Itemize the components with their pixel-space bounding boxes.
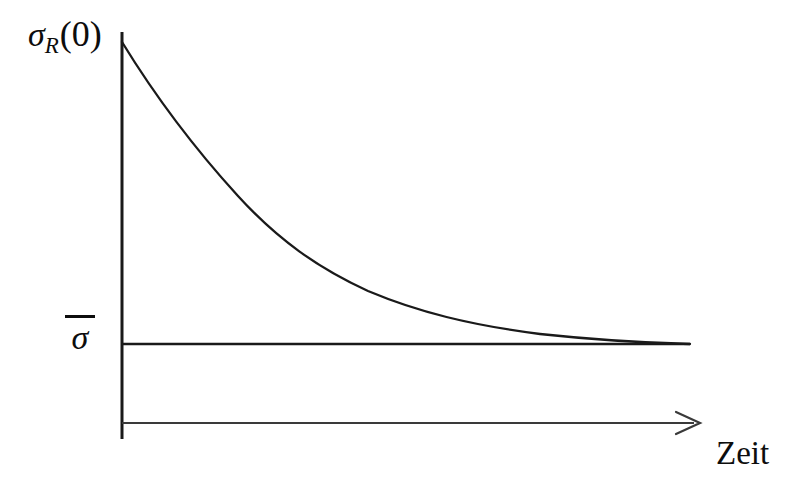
sigma-bar-symbol: σ — [57, 321, 103, 355]
sigma-argument: (0) — [60, 14, 102, 54]
x-axis-label: Zeit — [716, 437, 769, 470]
sigma-subscript-r: R — [45, 33, 59, 58]
stress-relaxation-figure: σR(0) σ Zeit — [0, 0, 801, 494]
figure-background — [0, 0, 801, 494]
plot-canvas — [0, 0, 801, 494]
initial-stress-label: σR(0) — [28, 16, 102, 57]
overbar-accent-icon — [65, 315, 95, 318]
sigma-symbol: σ — [28, 16, 45, 53]
asymptotic-stress-label: σ — [57, 315, 103, 355]
